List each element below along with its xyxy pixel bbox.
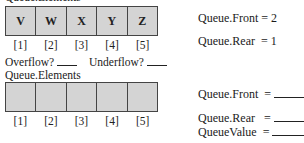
underflow-blank[interactable] <box>147 56 167 66</box>
bottom-front-label: Queue.Front = <box>198 87 271 101</box>
bottom-queue-label: Queue.Elements <box>5 69 81 81</box>
overflow-question: Overflow? <box>5 56 77 68</box>
bottom-cell-2[interactable] <box>36 83 66 111</box>
top-front-label: Queue.Front = 2 <box>198 11 277 26</box>
value-answer-blank[interactable] <box>272 126 304 136</box>
bottom-rear-label: Queue.Rear = <box>198 111 271 125</box>
bottom-index-1: [1] <box>5 115 36 127</box>
bottom-index-5: [5] <box>127 115 158 127</box>
bottom-front-row: Queue.Front = <box>198 87 304 102</box>
underflow-question: Underflow? <box>89 56 167 68</box>
bottom-cell-4[interactable] <box>97 83 127 111</box>
bottom-queue-array <box>5 82 158 112</box>
bottom-rear-row: Queue.Rear = <box>198 111 304 126</box>
top-cell-1: V <box>6 7 36 35</box>
top-index-row: [1] [2] [3] [4] [5] <box>5 39 158 51</box>
top-rear-label: Queue.Rear = 1 <box>198 34 277 49</box>
queue-value-label: QueueValue = <box>198 125 269 139</box>
top-index-5: [5] <box>127 39 158 51</box>
top-queue-array: V W X Y Z <box>5 6 158 36</box>
bottom-index-row: [1] [2] [3] [4] [5] <box>5 115 158 127</box>
bottom-index-3: [3] <box>66 115 97 127</box>
bottom-cell-5[interactable] <box>128 83 157 111</box>
top-index-3: [3] <box>66 39 97 51</box>
top-cell-3: X <box>67 7 97 35</box>
top-cell-4: Y <box>97 7 127 35</box>
overflow-blank[interactable] <box>57 56 77 66</box>
overflow-label: Overflow? <box>5 56 54 68</box>
top-index-4: [4] <box>97 39 128 51</box>
top-index-2: [2] <box>36 39 67 51</box>
bottom-cell-3[interactable] <box>67 83 97 111</box>
top-index-1: [1] <box>5 39 36 51</box>
bottom-value-row: QueueValue = <box>198 125 304 140</box>
bottom-cell-1[interactable] <box>6 83 36 111</box>
front-answer-blank[interactable] <box>274 88 304 98</box>
rear-answer-blank[interactable] <box>274 112 304 122</box>
top-cell-2: W <box>36 7 66 35</box>
top-queue-label: Queue.Elements <box>5 0 81 3</box>
bottom-index-2: [2] <box>36 115 67 127</box>
bottom-index-4: [4] <box>97 115 128 127</box>
underflow-label: Underflow? <box>89 56 144 68</box>
top-cell-5: Z <box>128 7 157 35</box>
